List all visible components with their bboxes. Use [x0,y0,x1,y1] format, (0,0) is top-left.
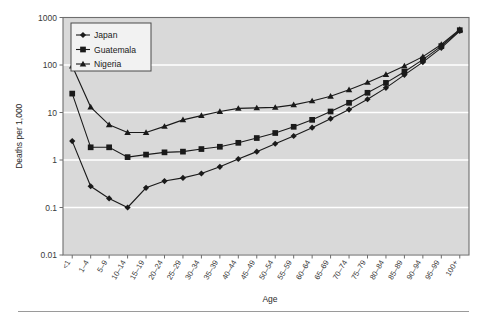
marker-square [254,135,260,141]
marker-square [383,80,389,86]
marker-square [291,124,297,130]
x-tick-label: 100+ [444,258,461,278]
marker-square [80,47,86,53]
x-tick-label: 65–69 [312,259,330,282]
marker-square [328,109,334,115]
x-tick-label: 55–59 [276,259,294,282]
marker-square [162,149,168,155]
x-tick-label: 95–99 [423,259,441,282]
x-tick-label: 60–64 [294,259,312,282]
x-tick-label: 5–9 [95,259,109,274]
legend: JapanGuatemalaNigeria [71,23,151,71]
marker-square [365,90,371,96]
x-tick-label: 70–74 [331,259,349,282]
legend-label: Nigeria [94,59,121,69]
marker-square [217,144,223,150]
legend-label: Japan [94,30,118,40]
x-tick-label: 15–19 [128,259,146,282]
y-tick-label: 1 [52,155,57,165]
marker-square [125,154,131,160]
footer-divider [18,311,469,312]
y-axis-title: Deaths per 1,000 [14,103,24,168]
marker-square [88,144,94,150]
x-tick-label: 50–54 [257,259,275,282]
x-tick-label: <1 [60,259,72,271]
marker-square [346,100,352,106]
y-tick-label: 0.01 [40,250,57,260]
marker-square [309,117,315,123]
marker-square [69,91,75,97]
y-tick-label: 1000 [38,13,57,23]
y-tick-label: 0.1 [45,203,57,213]
x-tick-label: 25–29 [165,259,183,282]
marker-square [143,152,149,158]
x-tick-label: 20–24 [146,259,164,282]
chart-figure: 10001001010.10.01Deaths per 1,000<11–45–… [0,0,487,318]
marker-square [199,146,205,152]
x-tick-label: 75–79 [349,259,367,282]
x-tick-label: 1–4 [77,259,91,274]
x-tick-label: 85–89 [386,259,404,282]
marker-square [402,69,408,75]
x-tick-label: 80–84 [368,259,386,282]
x-tick-label: 10–14 [109,259,127,282]
mortality-by-age-line-chart: 10001001010.10.01Deaths per 1,000<11–45–… [0,0,487,318]
y-tick-label: 100 [43,60,57,70]
y-tick-label: 10 [48,108,58,118]
legend-label: Guatemala [94,45,136,55]
x-tick-label: 35–39 [202,259,220,282]
x-tick-label: 45–49 [239,259,257,282]
x-tick-label: 30–34 [183,259,201,282]
x-axis-title: Age [262,294,277,304]
x-tick-label: 40–44 [220,259,238,282]
marker-square [235,140,241,146]
marker-square [272,130,278,136]
x-tick-label: 90–94 [405,259,423,282]
marker-square [180,149,186,155]
marker-square [106,144,112,150]
